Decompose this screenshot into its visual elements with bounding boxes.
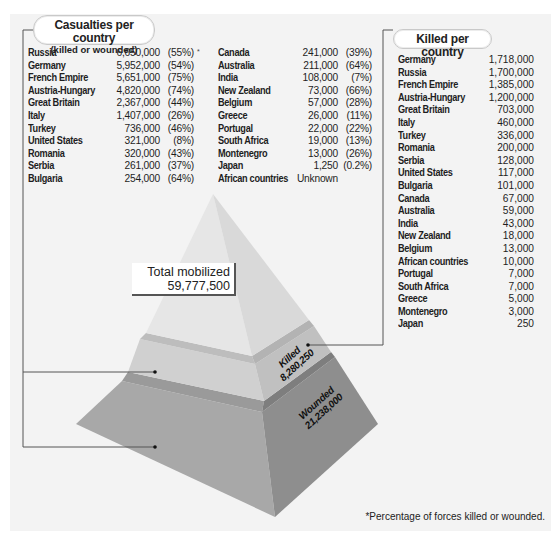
list-item: India43,000 <box>398 218 534 231</box>
list-item: South Africa19,000(13%) <box>218 135 372 148</box>
casualties-title-box: Casualties per country (killed or wounde… <box>33 15 155 45</box>
killed-left-pointer-dot <box>153 370 157 374</box>
list-item: Greece26,000(11%) <box>218 110 372 123</box>
list-item: Turkey336,000 <box>398 130 534 143</box>
killed-list: Germany1,718,000 Russia1,700,000 French … <box>398 54 534 331</box>
killed-title-box: Killed per country <box>393 29 492 49</box>
list-item: Bulgaria101,000 <box>398 180 534 193</box>
list-item: French Empire1,385,000 <box>398 79 534 92</box>
list-item: Montenegro3,000 <box>398 306 534 319</box>
list-item: United States321,000(8%) <box>28 135 194 148</box>
list-item: Germany1,718,000 <box>398 54 534 67</box>
list-item: Canada67,000 <box>398 193 534 206</box>
list-item: Serbia128,000 <box>398 155 534 168</box>
casualties-list-col2: Canada241,000(39%) Australia211,000(64%)… <box>218 47 372 186</box>
list-item: Austria-Hungary4,820,000(74%) <box>28 85 194 98</box>
wounded-pointer-dot <box>153 445 157 449</box>
list-item: Germany5,952,000(54%) <box>28 60 194 73</box>
list-item: Bulgaria254,000(64%) <box>28 173 194 186</box>
percentage-asterisk: * <box>197 48 200 55</box>
footnote: *Percentage of forces killed or wounded. <box>365 511 545 522</box>
list-item: Japan250 <box>398 318 534 331</box>
list-item: New Zealand18,000 <box>398 230 534 243</box>
list-item: Portugal22,000(22%) <box>218 123 372 136</box>
total-mobilized-value: 59,777,500 <box>138 279 230 293</box>
list-item: India108,000(7%) <box>218 72 372 85</box>
list-item: Great Britain703,000 <box>398 104 534 117</box>
list-item: African countries10,000 <box>398 256 534 269</box>
casualties-title: Casualties per country <box>34 16 154 45</box>
list-item: Canada241,000(39%) <box>218 47 372 60</box>
list-item: Australia211,000(64%) <box>218 60 372 73</box>
list-item: Japan1,250(0.2%) <box>218 160 372 173</box>
casualties-list-col1: Russia6,650,000(55%) Germany5,952,000(54… <box>28 47 194 186</box>
list-item: Great Britain2,367,000(44%) <box>28 97 194 110</box>
list-item: United States117,000 <box>398 167 534 180</box>
list-item: French Empire5,651,000(75%) <box>28 72 194 85</box>
list-item: Australia59,000 <box>398 205 534 218</box>
list-item: Italy1,407,000(26%) <box>28 110 194 123</box>
list-item: African countriesUnknown <box>218 173 372 186</box>
list-item: Austria-Hungary1,200,000 <box>398 92 534 105</box>
list-item: Italy460,000 <box>398 117 534 130</box>
list-item: South Africa7,000 <box>398 281 534 294</box>
list-item: Romania320,000(43%) <box>28 148 194 161</box>
list-item: Russia1,700,000 <box>398 67 534 80</box>
list-item: Turkey736,000(46%) <box>28 123 194 136</box>
list-item: Portugal7,000 <box>398 268 534 281</box>
list-item: Montenegro13,000(26%) <box>218 148 372 161</box>
list-item: Romania200,000 <box>398 142 534 155</box>
total-mobilized-callout: Total mobilized 59,777,500 <box>132 263 236 296</box>
list-item: Belgium13,000 <box>398 243 534 256</box>
list-item: Belgium57,000(28%) <box>218 97 372 110</box>
list-item: Russia6,650,000(55%) <box>28 47 194 60</box>
list-item: Greece5,000 <box>398 293 534 306</box>
list-item: New Zealand73,000(66%) <box>218 85 372 98</box>
list-item: Serbia261,000(37%) <box>28 160 194 173</box>
total-mobilized-label: Total mobilized <box>138 265 230 279</box>
